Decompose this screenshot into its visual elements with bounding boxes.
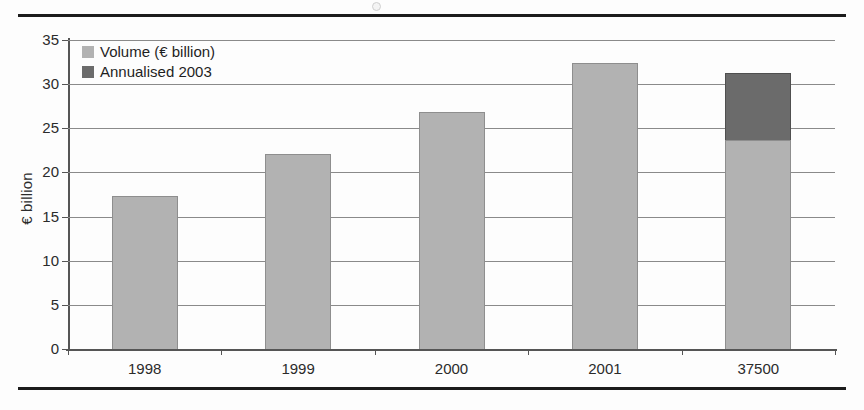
y-tick-mark-20 xyxy=(62,172,68,173)
bar-group[interactable] xyxy=(725,73,791,349)
y-tick-mark-15 xyxy=(62,217,68,218)
x-tick-label-2001: 2001 xyxy=(545,360,665,377)
gridline-35: 35 xyxy=(68,40,835,41)
bar-segment[interactable] xyxy=(725,140,791,349)
x-tick-label-2000: 2000 xyxy=(392,360,512,377)
y-tick-mark-25 xyxy=(62,128,68,129)
bar-group[interactable] xyxy=(419,112,485,349)
y-tick-label-10: 10 xyxy=(42,252,59,269)
x-tick-label-1998: 1998 xyxy=(85,360,205,377)
x-tick-label-37500: 37500 xyxy=(698,360,818,377)
x-tick-mark-origin xyxy=(68,349,69,355)
y-tick-label-25: 25 xyxy=(42,119,59,136)
y-tick-mark-30 xyxy=(62,84,68,85)
y-tick-label-20: 20 xyxy=(42,164,59,181)
legend-swatch-volume xyxy=(82,46,94,58)
y-axis-title: € billion xyxy=(18,144,35,254)
bar-chart-figure: € billion 35302520151050 Volume (€ billi… xyxy=(0,22,864,382)
page-rule-bottom xyxy=(18,387,846,390)
x-tick-mark xyxy=(221,349,222,355)
gridline-30: 30 xyxy=(68,84,835,85)
figure-page: € billion 35302520151050 Volume (€ billi… xyxy=(0,0,864,410)
y-tick-label-5: 5 xyxy=(51,296,59,313)
legend-swatch-annualised xyxy=(82,66,94,78)
x-tick-mark xyxy=(835,349,836,355)
y-tick-label-0: 0 xyxy=(51,340,59,357)
y-tick-label-30: 30 xyxy=(42,75,59,92)
legend-item[interactable]: Volume (€ billion) xyxy=(82,42,215,61)
bar-group[interactable] xyxy=(572,63,638,349)
bar-segment[interactable] xyxy=(725,73,791,140)
bar-segment[interactable] xyxy=(419,112,485,349)
scan-speck xyxy=(372,2,381,11)
y-tick-mark-35 xyxy=(62,40,68,41)
bar-group[interactable] xyxy=(265,154,331,349)
bar-segment[interactable] xyxy=(265,154,331,349)
x-tick-mark xyxy=(682,349,683,355)
x-tick-label-1999: 1999 xyxy=(238,360,358,377)
bar-segment[interactable] xyxy=(112,196,178,349)
y-tick-label-35: 35 xyxy=(42,31,59,48)
x-tick-mark xyxy=(375,349,376,355)
page-rule-top xyxy=(18,14,846,17)
plot-area: 35302520151050 Volume (€ billion)Annuali… xyxy=(68,40,835,349)
bar-group[interactable] xyxy=(112,196,178,349)
y-tick-mark-10 xyxy=(62,261,68,262)
x-tick-mark xyxy=(528,349,529,355)
legend-label: Volume (€ billion) xyxy=(100,43,215,60)
y-tick-label-15: 15 xyxy=(42,208,59,225)
legend-item[interactable]: Annualised 2003 xyxy=(82,62,215,81)
bar-segment[interactable] xyxy=(572,63,638,349)
y-tick-mark-5 xyxy=(62,305,68,306)
gridline-0: 0 xyxy=(68,349,835,350)
legend-label: Annualised 2003 xyxy=(100,63,212,80)
chart-legend: Volume (€ billion)Annualised 2003 xyxy=(82,42,215,81)
